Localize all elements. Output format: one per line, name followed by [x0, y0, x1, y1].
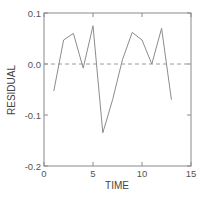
- x-axis-label: TIME: [105, 180, 129, 191]
- x-tick-labels: 051015: [41, 168, 196, 179]
- plot-area-border: [44, 13, 191, 166]
- y-tick-label: 0.0: [28, 59, 41, 70]
- plot-frame: [44, 13, 191, 166]
- axis-ticks: [44, 13, 191, 166]
- y-axis-label: RESIDUAL: [6, 65, 17, 115]
- y-tick-label: -0.2: [25, 161, 41, 172]
- x-tick-label: 0: [41, 168, 46, 179]
- x-tick-label: 5: [90, 168, 95, 179]
- x-tick-label: 10: [137, 168, 148, 179]
- x-tick-label: 15: [186, 168, 197, 179]
- y-tick-label: -0.1: [25, 110, 41, 121]
- residual-chart: 051015 0.10.0-0.1-0.2 TIME RESIDUAL: [0, 0, 207, 200]
- y-tick-labels: 0.10.0-0.1-0.2: [25, 8, 41, 172]
- y-tick-label: 0.1: [28, 8, 41, 19]
- residual-series-line: [54, 26, 172, 133]
